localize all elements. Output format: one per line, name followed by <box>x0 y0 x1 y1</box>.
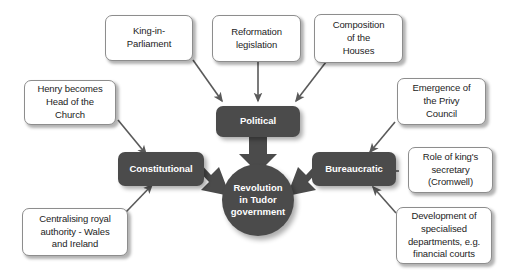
factor-box-emergence-privy-council[interactable]: Emergence of the Privy Council <box>397 78 486 125</box>
hub-line: Revolution <box>231 182 285 194</box>
factor-line: the Privy <box>413 95 471 108</box>
category-label: Bureaucratic <box>325 163 382 175</box>
category-node-constitutional[interactable]: Constitutional <box>118 152 204 186</box>
factor-line: Head of the <box>37 96 102 109</box>
factor-line: and Ireland <box>39 238 111 251</box>
category-label: Political <box>240 115 276 127</box>
factor-line: Church <box>37 109 102 122</box>
factor-line: Reformation <box>231 26 282 39</box>
factor-line: King-in- <box>127 25 171 38</box>
factor-line: Houses <box>333 45 385 58</box>
category-node-political[interactable]: Political <box>216 106 300 137</box>
factor-box-composition-of-the-houses[interactable]: Composition of the Houses <box>314 14 403 63</box>
connector-king-in-parliament-to-political <box>193 60 222 101</box>
factor-line: of the <box>333 32 385 45</box>
factor-line: Emergence of <box>413 82 471 95</box>
factor-line: Role of king's <box>423 151 478 164</box>
factor-box-king-in-parliament[interactable]: King-in- Parliament <box>105 15 193 61</box>
factor-line: financial courts <box>408 248 480 261</box>
diagram-canvas: King-in- Parliament Reformation legislat… <box>0 0 509 278</box>
factor-line: Development of <box>408 210 480 223</box>
category-node-bureaucratic[interactable]: Bureaucratic <box>312 152 396 186</box>
connector-henry-head-of-church-to-constitutional <box>118 120 146 154</box>
category-label: Constitutional <box>129 163 192 175</box>
factor-line: (Cromwell) <box>423 176 478 189</box>
factor-line: Parliament <box>127 38 171 51</box>
factor-box-centralising-royal-authority[interactable]: Centralising royal authority - Wales and… <box>22 208 128 256</box>
factor-box-reformation-legislation[interactable]: Reformation legislation <box>212 15 301 62</box>
factor-line: legislation <box>231 39 282 52</box>
hub-line: government <box>231 206 285 218</box>
factor-line: departments, e.g. <box>408 236 480 249</box>
connector-emergence-privy-council-to-bureaucratic <box>370 122 395 152</box>
connector-centralising-royal-authority-to-constitutional <box>126 185 152 212</box>
factor-line: Council <box>413 108 471 121</box>
factor-line: authority - Wales <box>39 226 111 239</box>
central-hub-revolution-in-tudor-government[interactable]: Revolution in Tudor government <box>222 164 294 236</box>
connector-development-departments-to-bureaucratic <box>373 187 396 213</box>
factor-line: Centralising royal <box>39 213 111 226</box>
factor-box-henry-head-of-church[interactable]: Henry becomes Head of the Church <box>24 80 116 125</box>
hub-line: in Tudor <box>231 194 285 206</box>
factor-box-role-of-kings-secretary[interactable]: Role of king's secretary (Cromwell) <box>408 147 493 193</box>
factor-box-development-specialised-departments[interactable]: Development of specialised departments, … <box>396 207 492 264</box>
factor-line: secretary <box>423 164 478 177</box>
connector-composition-of-houses-to-political <box>296 62 326 101</box>
factor-line: specialised <box>408 223 480 236</box>
factor-line: Composition <box>333 19 385 32</box>
factor-line: Henry becomes <box>37 83 102 96</box>
